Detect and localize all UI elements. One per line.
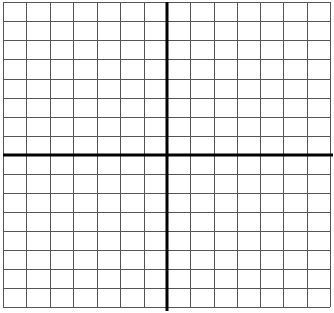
coordinate-plane [0, 0, 334, 313]
